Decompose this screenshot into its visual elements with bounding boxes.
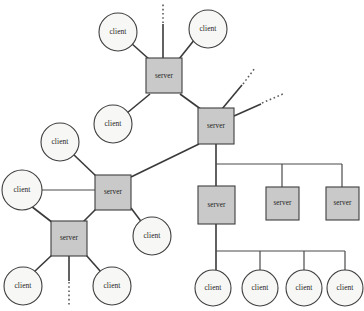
client-node-top-right[interactable]: client [189, 10, 227, 48]
client-node-label: client [14, 281, 32, 290]
client-node-bottom-left[interactable]: client [4, 267, 42, 305]
client-node-label: client [109, 27, 127, 36]
stub-hub-lower-dashed-segment [262, 94, 283, 103]
server-node-label: server [273, 199, 292, 207]
server-node-top[interactable]: server [146, 58, 182, 93]
link-client-to-top-server-b [179, 39, 195, 59]
link-client-to-lowleft-server-c [86, 255, 101, 272]
server-node-branch-1[interactable]: server [198, 186, 235, 224]
server-node-label: server [155, 72, 174, 80]
client-node-bus-4[interactable]: client [327, 270, 363, 306]
client-node-bus-2[interactable]: client [242, 270, 278, 306]
server-node-branch-2[interactable]: server [266, 187, 299, 220]
client-node-label: client [199, 24, 217, 33]
stub-hub-lower-solid-segment [234, 104, 261, 116]
client-node-top-left[interactable]: client [99, 13, 137, 51]
server-node-branch-3[interactable]: server [326, 187, 359, 220]
network-topology-diagram: server server server server server serve [0, 0, 364, 311]
server-node-label: server [207, 201, 226, 209]
client-node-label: client [51, 137, 69, 146]
server-node-hub[interactable]: server [198, 108, 234, 144]
server-node-label: server [60, 234, 79, 242]
client-node-bus-3[interactable]: client [286, 270, 322, 306]
client-node-left-upper[interactable]: client [41, 123, 79, 161]
client-node-label: client [143, 231, 161, 240]
server-node-midleft[interactable]: server [95, 175, 131, 210]
link-hub-server-to-midleft-server [131, 144, 199, 177]
client-node-label: client [336, 283, 354, 292]
client-node-label: client [204, 283, 222, 292]
link-client-to-lowleft-server-a [31, 206, 53, 223]
stub-links-layer [69, 2, 283, 306]
stub-hub-upper-solid-segment [222, 85, 242, 109]
client-node-label: client [295, 283, 313, 292]
stub-hub-upper-dashed-segment [243, 68, 255, 84]
server-nodes-layer: server server server server server serve [51, 58, 359, 256]
client-node-label: client [13, 185, 31, 194]
client-node-label: client [251, 283, 269, 292]
client-node-label: client [104, 119, 122, 128]
client-node-bus-1[interactable]: client [195, 270, 231, 306]
client-node-bottom-right[interactable]: client [93, 267, 131, 305]
network-diagram-canvas: server server server server server serve [0, 0, 364, 311]
link-midleft-server-to-lowleft-server [83, 209, 96, 222]
client-node-label: client [103, 281, 121, 290]
server-node-lowleft[interactable]: server [51, 221, 87, 256]
link-client-to-lowleft-server-b [34, 255, 52, 272]
client-node-right-mid[interactable]: client [133, 217, 171, 255]
link-client-to-top-server-c [127, 94, 150, 113]
server-node-label: server [333, 199, 352, 207]
server-node-label: server [207, 122, 226, 130]
server-node-label: server [104, 188, 123, 196]
client-node-left-mid[interactable]: client [2, 170, 42, 210]
client-node-top-below[interactable]: client [94, 105, 132, 143]
link-client-to-midleft-server-a [73, 154, 96, 176]
